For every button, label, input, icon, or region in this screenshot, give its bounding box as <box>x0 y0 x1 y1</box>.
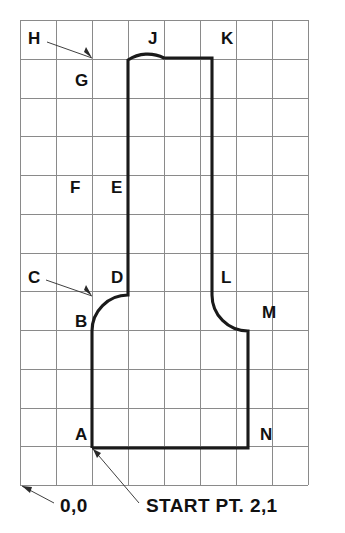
technical-drawing-svg: ABCDEFGHJKLMN 0,0START PT. 2,1 <box>0 0 345 533</box>
vertex-label-g: G <box>75 71 89 90</box>
vertex-label-m: M <box>262 303 276 322</box>
annotation-start-point: START PT. 2,1 <box>146 495 278 516</box>
vertex-label-c: C <box>28 268 41 287</box>
vertex-label-f: F <box>70 178 81 197</box>
vertex-label-n: N <box>260 425 273 444</box>
vertex-label-a: A <box>75 425 88 444</box>
vertex-label-j: J <box>148 29 158 48</box>
vertex-label-d: D <box>111 268 124 287</box>
annotation-origin: 0,0 <box>60 495 88 516</box>
vertex-label-h: H <box>28 29 41 48</box>
vertex-label-k: K <box>221 29 234 48</box>
drawing-canvas: ABCDEFGHJKLMN 0,0START PT. 2,1 <box>0 0 345 533</box>
canvas-background <box>0 0 345 533</box>
vertex-label-b: B <box>75 312 88 331</box>
vertex-label-l: L <box>221 268 232 287</box>
vertex-label-e: E <box>111 178 123 197</box>
